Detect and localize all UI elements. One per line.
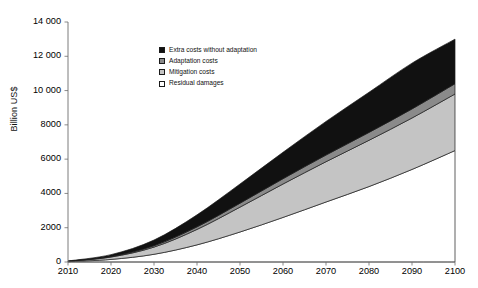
legend-item: Adaptation costs [159, 56, 257, 66]
legend-item-label: Residual damages [169, 80, 224, 87]
dark-gray-swatch-icon [159, 58, 165, 64]
black-swatch-icon [159, 47, 165, 53]
legend-item-label: Mitigation costs [169, 69, 214, 76]
chart-figure: Billion US$ 0200040006000800010 00012 00… [0, 0, 478, 288]
legend-item: Extra costs without adaptation [159, 45, 257, 55]
chart-legend: Extra costs without adaptation Adaptatio… [159, 45, 257, 90]
legend-item-label: Extra costs without adaptation [169, 47, 257, 54]
legend-item: Residual damages [159, 79, 257, 89]
legend-item: Mitigation costs [159, 67, 257, 77]
light-gray-swatch-icon [159, 69, 165, 75]
legend-item-label: Adaptation costs [169, 58, 218, 65]
white-swatch-icon [159, 81, 165, 87]
stacked-area-plot [0, 0, 478, 288]
